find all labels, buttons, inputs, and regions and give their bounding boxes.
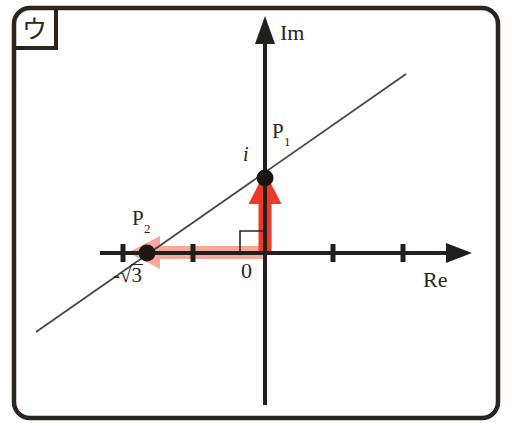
imaginary-axis bbox=[255, 16, 275, 405]
point-p2-value-label: -√3 bbox=[113, 264, 143, 286]
figure-panel: ウ Im Re 0 i P1 P2 -√3 bbox=[0, 0, 512, 426]
point-p1-label-subscript: 1 bbox=[284, 134, 291, 149]
panel-label-text: ウ bbox=[22, 9, 47, 45]
radical-sign: √ bbox=[120, 265, 132, 286]
point-p2-label-base: P bbox=[132, 206, 144, 230]
panel-frame bbox=[14, 8, 498, 418]
point-p1-label-base: P bbox=[272, 119, 284, 143]
point-p1 bbox=[257, 170, 274, 187]
point-p2 bbox=[139, 245, 156, 262]
panel-label-box: ウ bbox=[14, 8, 58, 50]
radicand: 3 bbox=[131, 264, 144, 286]
point-p2-label-subscript: 2 bbox=[144, 221, 151, 236]
point-p1-label: P1 bbox=[272, 121, 290, 145]
minus-sign: - bbox=[113, 265, 120, 286]
locus-line bbox=[36, 74, 406, 332]
imaginary-axis-label: Im bbox=[280, 22, 304, 44]
origin-label: 0 bbox=[241, 260, 252, 282]
point-p2-label: P2 bbox=[132, 208, 150, 232]
real-axis-label: Re bbox=[423, 269, 447, 291]
point-p1-value-label: i bbox=[243, 144, 249, 164]
complex-plane-figure bbox=[0, 0, 512, 426]
